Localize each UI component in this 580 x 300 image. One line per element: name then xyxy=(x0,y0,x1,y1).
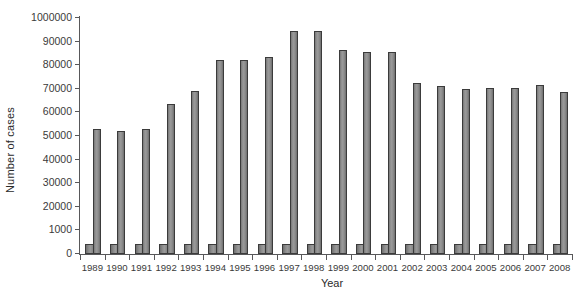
bar-chart: Number of cases 010002000030000400005000… xyxy=(0,0,580,300)
y-tick-label: 1000000 xyxy=(31,11,72,23)
y-tick-label: 70000 xyxy=(43,82,72,94)
x-tick-label: 1991 xyxy=(129,262,155,274)
x-tick-mark xyxy=(375,255,376,260)
x-tick-label: 1996 xyxy=(252,262,278,274)
x-tick-label: 2006 xyxy=(498,262,524,274)
x-tick-mark xyxy=(252,255,253,260)
y-tick-label: 0 xyxy=(66,247,72,259)
y-tick-label: 20000 xyxy=(43,200,72,212)
x-tick-label: 1998 xyxy=(301,262,327,274)
x-tick-mark xyxy=(105,255,106,260)
x-tick-label: 1993 xyxy=(178,262,204,274)
plot-area xyxy=(80,16,572,254)
x-tick-mark xyxy=(203,255,204,260)
x-tick-mark xyxy=(400,255,401,260)
x-tick-label: 1989 xyxy=(79,262,105,274)
x-tick-mark xyxy=(351,255,352,260)
x-tick-mark xyxy=(498,255,499,260)
bar-tall xyxy=(560,92,568,254)
y-tick-label: 60000 xyxy=(43,105,72,117)
y-axis-title: Number of cases xyxy=(0,0,20,300)
y-tick-label: 90000 xyxy=(43,35,72,47)
x-tick-label: 1999 xyxy=(325,262,351,274)
y-tick-label: 30000 xyxy=(43,176,72,188)
x-tick-mark xyxy=(277,255,278,260)
x-tick-label: 2008 xyxy=(547,262,573,274)
x-axis-title-label: Year xyxy=(321,277,343,289)
x-tick-label: 2005 xyxy=(473,262,499,274)
x-tick-label: 2001 xyxy=(375,262,401,274)
bar-group xyxy=(80,16,572,254)
x-tick-mark xyxy=(178,255,179,260)
x-tick-mark xyxy=(228,255,229,260)
x-tick-mark xyxy=(449,255,450,260)
x-tick-mark xyxy=(301,255,302,260)
x-tick-mark xyxy=(326,255,327,260)
x-tick-mark xyxy=(523,255,524,260)
x-tick-label: 2000 xyxy=(350,262,376,274)
x-tick-label: 2004 xyxy=(448,262,474,274)
x-tick-label: 1995 xyxy=(227,262,253,274)
y-tick-label: 80000 xyxy=(43,58,72,70)
y-tick-label: 50000 xyxy=(43,129,72,141)
x-tick-label: 1997 xyxy=(276,262,302,274)
x-tick-label: 2007 xyxy=(522,262,548,274)
y-tick-label: 40000 xyxy=(43,153,72,165)
x-tick-label: 2003 xyxy=(424,262,450,274)
x-tick-mark xyxy=(80,255,81,260)
x-tick-mark xyxy=(572,255,573,260)
x-tick-mark xyxy=(547,255,548,260)
x-tick-label: 1990 xyxy=(104,262,130,274)
x-tick-label: 2002 xyxy=(399,262,425,274)
x-axis-title: Year xyxy=(0,277,580,289)
x-tick-label: 1992 xyxy=(153,262,179,274)
x-tick-mark xyxy=(154,255,155,260)
x-tick-mark xyxy=(474,255,475,260)
x-tick-mark xyxy=(129,255,130,260)
y-tick-label: 1000 xyxy=(49,223,72,235)
x-tick-label: 1994 xyxy=(202,262,228,274)
x-tick-mark xyxy=(424,255,425,260)
